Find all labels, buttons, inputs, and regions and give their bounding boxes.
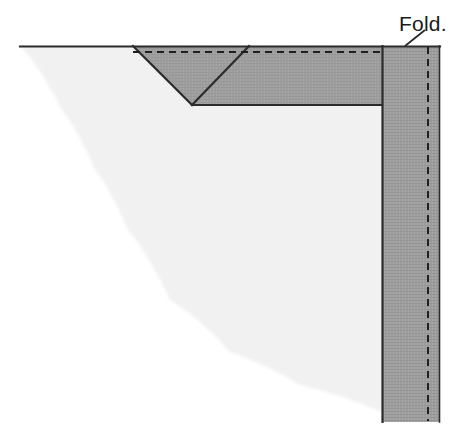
right-band-fill — [382, 46, 440, 422]
fold-diagram-container: Fold. — [0, 0, 468, 438]
right-fold-band — [382, 46, 440, 422]
fold-diagram-illustration: Fold. — [0, 0, 468, 438]
fold-label: Fold. — [399, 12, 447, 35]
